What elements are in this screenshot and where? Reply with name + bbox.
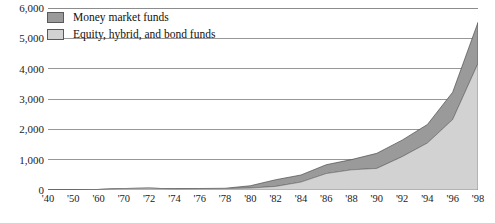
x-tick-label: '50 (67, 194, 79, 205)
x-axis: '40'50'60'70'72'74'76'78'80'82'84'86'88'… (48, 194, 478, 212)
y-tick-label: 0 (0, 185, 44, 196)
y-tick-label: 3,000 (0, 94, 44, 105)
x-tick-label: '74 (168, 194, 180, 205)
legend-item: Money market funds (47, 10, 267, 25)
x-tick-label: '76 (194, 194, 206, 205)
y-tick-label: 4,000 (0, 63, 44, 74)
x-tick-label: '70 (118, 194, 130, 205)
x-tick-label: '72 (143, 194, 155, 205)
x-tick-label: '88 (345, 194, 357, 205)
y-tick-label: 5,000 (0, 33, 44, 44)
chart-legend: Money market fundsEquity, hybrid, and bo… (47, 10, 267, 44)
legend-item: Equity, hybrid, and bond funds (47, 27, 267, 42)
x-tick-label: '92 (396, 194, 408, 205)
y-tick-label: 2,000 (0, 124, 44, 135)
x-tick-label: '82 (269, 194, 281, 205)
x-tick-label: '60 (92, 194, 104, 205)
y-tick-label: 6,000 (0, 3, 44, 14)
x-tick-label: '90 (371, 194, 383, 205)
x-tick-label: '40 (42, 194, 54, 205)
mutual-fund-assets-area-chart: 01,0002,0003,0004,0005,0006,000 Money ma… (0, 0, 495, 223)
x-tick-label: '96 (447, 194, 459, 205)
x-tick-label: '78 (219, 194, 231, 205)
x-tick-label: '94 (421, 194, 433, 205)
y-axis: 01,0002,0003,0004,0005,0006,000 (0, 0, 44, 223)
legend-label: Equity, hybrid, and bond funds (73, 29, 215, 41)
area-equity-hybrid-bond-funds (48, 63, 478, 190)
y-tick-label: 1,000 (0, 154, 44, 165)
x-tick-label: '98 (472, 194, 484, 205)
x-tick-label: '80 (244, 194, 256, 205)
legend-swatch-icon (47, 29, 64, 40)
legend-label: Money market funds (73, 12, 169, 24)
x-tick-label: '86 (320, 194, 332, 205)
legend-swatch-icon (47, 12, 64, 23)
x-tick-label: '84 (295, 194, 307, 205)
data-areas (48, 22, 478, 190)
